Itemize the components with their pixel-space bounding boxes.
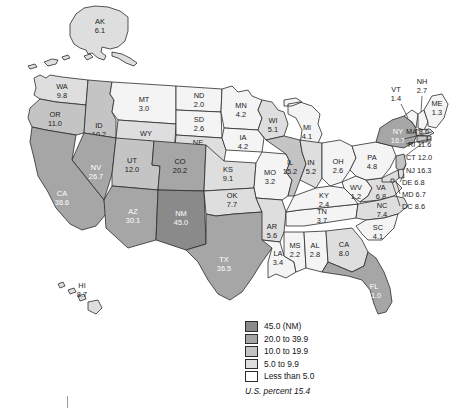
legend-swatch [245,371,258,382]
state-label-AR-name: AR [267,222,277,231]
state-OK[interactable]: OK 7.7 [204,188,262,216]
state-label-NV-value: 26.7 [89,172,103,181]
state-label-IL-name: IL [287,158,293,167]
state-label-MI-value: 4.1 [302,132,312,141]
state-label-SC-value: 4.1 [373,232,383,241]
legend-label: 20.0 to 39.9 [264,335,308,343]
state-label-KS-value: 9.1 [223,174,233,183]
state-label-NH-name: NH [417,77,428,86]
state-HI[interactable]: HI 8.7 [58,281,102,314]
state-label-OR-value: 11.0 [48,119,62,128]
state-label-WI-name: WI [268,116,277,125]
state-label-NY-name: NY [393,127,403,136]
callout-label-CT: CT 12.0 [406,153,432,162]
callout-label-MD: MD 6.7 [402,190,426,199]
leader-NH [421,96,422,112]
state-NM[interactable]: NM 45.0 [156,190,206,250]
state-label-VA-name: VA [376,183,385,192]
state-label-NM-value: 45.0 [174,218,188,227]
state-shape-AK-panhandle [112,52,137,66]
state-label-AZ-name: AZ [128,207,138,216]
state-NH[interactable]: NH 2.7 [417,77,428,130]
state-label-IL-value: 15.2 [283,167,297,176]
state-label-TX-value: 36.5 [217,264,231,273]
callout-RI: RI 11.6 [406,139,431,149]
legend-footnote: U.S. percent 15.4 [245,386,314,396]
state-MT[interactable]: MT 3.0 [110,82,176,124]
state-label-IA-name: IA [240,133,247,142]
map-legend: 45.0 (NM) 20.0 to 39.9 10.0 to 19.9 5.0 … [245,320,314,396]
state-label-OK-name: OK [227,191,238,200]
legend-row: 10.0 to 19.9 [245,345,314,358]
state-label-VT-name: VT [391,85,401,94]
state-SD[interactable]: SD 2.6 [176,110,222,138]
state-label-HI-name: HI [78,281,85,290]
state-label-MN-name: MN [235,101,247,110]
legend-swatch [245,359,258,370]
choropleth-map: AK 6.1 WA 9.8 OR 11.0 ID 10.2 MT 3.0 WY … [0,0,464,413]
state-AL[interactable]: AL 2.8 [304,231,328,272]
state-label-TN-value: 3.7 [317,216,327,225]
state-label-LA-value: 3.4 [273,258,283,267]
state-DC[interactable] [391,179,394,182]
state-label-GA-value: 8.0 [339,249,349,258]
state-label-WY-name: WY [140,129,152,138]
callout-label-MA: MA 8.6 [406,127,429,136]
state-ND[interactable]: ND 2.0 [176,86,222,112]
state-label-NV-name: NV [91,163,101,172]
state-label-ND-name: ND [194,91,205,100]
state-label-WA-name: WA [56,82,68,91]
callout-label-NJ: NJ 16.3 [406,166,431,175]
legend-row: 45.0 (NM) [245,320,314,333]
state-WI[interactable]: WI 5.1 [258,100,288,140]
state-label-PA-value: 4.8 [367,162,377,171]
state-label-AK-value: 6.1 [95,26,105,35]
state-label-SD-value: 2.6 [194,124,204,133]
state-shape-DC [391,179,394,182]
state-label-MO-name: MO [264,168,276,177]
state-label-GA-name: CA [339,240,349,249]
state-label-ME-name: ME [431,99,442,108]
state-label-SC-name: SC [373,223,384,232]
callout-label-DC: DC 8.6 [402,202,425,211]
state-label-ID-name: ID [95,121,102,130]
state-label-MT-value: 3.0 [139,104,149,113]
state-label-PA-name: PA [367,153,376,162]
state-label-CA-name: CA [57,189,67,198]
legend-swatch [245,321,258,332]
legend-swatch [245,334,258,345]
state-ME[interactable]: ME 1.3 [424,94,448,128]
state-label-MN-value: 4.2 [236,110,246,119]
state-label-CO-name: CO [174,157,185,166]
page-tick-mark [67,396,68,408]
state-AK[interactable]: AK 6.1 [28,6,137,69]
state-label-SD-name: SD [194,115,204,124]
state-label-CA-value: 36.6 [55,198,69,207]
state-label-MI-name: MI [303,123,311,132]
state-label-OR-name: OR [49,110,60,119]
us-map-svg: AK 6.1 WA 9.8 OR 11.0 ID 10.2 MT 3.0 WY … [0,0,464,413]
state-IA[interactable]: IA 4.2 [222,128,264,152]
legend-label: Less than 5.0 [264,372,314,380]
state-CO[interactable]: CO 20.2 [152,141,206,191]
state-label-WA-value: 9.8 [57,91,67,100]
state-label-OK-value: 7.7 [227,200,237,209]
state-label-IA-value: 4.2 [238,142,248,151]
state-label-NC-name: NC [377,201,388,210]
state-AZ[interactable]: AZ 30.1 [104,186,158,248]
state-label-MO-value: 3.2 [265,177,275,186]
state-label-CO-value: 20.2 [173,166,187,175]
state-label-FL-name: FL [370,282,379,291]
legend-swatch [245,346,258,357]
state-label-HI-value: 8.7 [77,290,87,299]
state-label-OH-value: 2.6 [333,166,343,175]
callout-NJ: NJ 16.3 [404,164,431,175]
state-label-IN-name: IN [307,158,314,167]
state-KS[interactable]: KS 9.1 [204,145,256,191]
state-label-WV-name: WV [350,183,362,192]
legend-label: 10.0 to 19.9 [264,347,308,355]
state-label-NY-value: 16.7 [391,136,405,145]
state-label-AZ-value: 30.1 [126,216,140,225]
state-MN[interactable]: MN 4.2 [221,86,262,130]
state-label-TX-name: TX [219,255,229,264]
